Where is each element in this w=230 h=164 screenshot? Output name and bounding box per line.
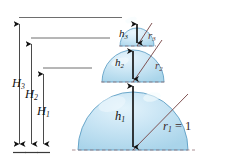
- label-h2: h2: [115, 57, 124, 69]
- label-H2: H2: [25, 88, 38, 101]
- stacked-spheres-diagram: [0, 0, 230, 164]
- label-h1: h1: [115, 110, 125, 123]
- label-r3: r3: [148, 30, 156, 42]
- label-r1: r1 = 1: [163, 120, 191, 133]
- horizontal-guides: [19, 18, 122, 69]
- label-H1: H1: [37, 105, 50, 118]
- label-H3: H3: [12, 77, 25, 90]
- label-h3: h3: [119, 28, 128, 40]
- label-r2: r2: [155, 60, 163, 72]
- figure-canvas: H3 H2 H1 h3 h2 h1 r3 r2 r1 = 1: [0, 0, 230, 164]
